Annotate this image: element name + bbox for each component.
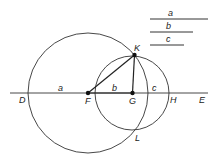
label-D: D xyxy=(19,95,26,105)
legend-label-a: a xyxy=(168,8,173,18)
segment-label-b: b xyxy=(112,83,117,93)
legend: a b c xyxy=(150,8,208,45)
point-F xyxy=(86,91,90,95)
label-F: F xyxy=(85,96,91,106)
legend-label-c: c xyxy=(166,34,171,44)
label-E: E xyxy=(199,95,206,105)
point-K xyxy=(132,53,136,57)
segment-KG xyxy=(133,55,135,93)
label-H: H xyxy=(170,95,177,105)
geometry-diagram: a b c D F G H E K L a b c xyxy=(0,0,220,159)
label-G: G xyxy=(129,96,136,106)
point-G xyxy=(130,91,134,95)
segment-label-a: a xyxy=(58,83,63,93)
segment-label-c: c xyxy=(152,83,157,93)
legend-label-b: b xyxy=(166,21,171,31)
label-K: K xyxy=(134,43,141,53)
label-L: L xyxy=(135,133,140,143)
